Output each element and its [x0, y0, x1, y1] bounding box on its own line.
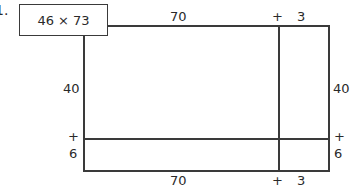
left-edge	[83, 36, 85, 172]
bottom-label-ones: 3	[297, 174, 305, 188]
expression-label-box: 46 × 73	[19, 4, 108, 36]
vertical-divider	[278, 25, 280, 172]
bottom-edge	[83, 170, 330, 172]
bottom-label-plus: +	[272, 174, 283, 188]
expression-text: 46 × 73	[37, 13, 89, 28]
top-edge	[108, 25, 330, 27]
problem-number: 1.	[0, 3, 8, 17]
left-label-tens: 40	[63, 82, 80, 96]
left-label-plus: +	[68, 130, 79, 144]
top-label-plus: +	[272, 10, 283, 24]
left-label-ones: 6	[69, 147, 77, 161]
top-label-ones: 3	[297, 10, 305, 24]
right-label-tens: 40	[333, 82, 350, 96]
right-label-ones: 6	[334, 147, 342, 161]
horizontal-divider	[83, 138, 330, 140]
right-label-plus: +	[334, 130, 345, 144]
bottom-label-tens: 70	[170, 174, 187, 188]
right-edge	[328, 25, 330, 172]
top-label-tens: 70	[170, 10, 187, 24]
